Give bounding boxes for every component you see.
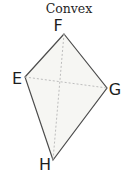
kite-diagram: F E G H [0, 0, 124, 177]
vertex-label: E [12, 69, 22, 88]
vertex-label: F [53, 16, 62, 35]
vertex-label: H [39, 155, 51, 174]
geometry-figure: Convex F E G H [0, 0, 124, 177]
vertex-label: G [109, 80, 121, 99]
kite-outline [25, 34, 107, 160]
